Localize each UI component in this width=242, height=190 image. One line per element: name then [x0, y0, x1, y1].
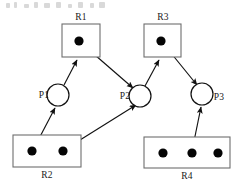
resource-label-r4: R4: [181, 171, 193, 181]
token-dot: [156, 36, 165, 45]
resource-label-r1: R1: [75, 12, 87, 22]
process-circle-p3: [191, 83, 213, 105]
token-dot: [27, 146, 36, 155]
resource-node-r1[interactable]: R1: [62, 12, 100, 57]
resource-box-r2: [13, 135, 81, 167]
edge-p2-to-r3: [145, 60, 159, 86]
process-circle-p1: [47, 84, 69, 106]
resource-node-r2[interactable]: R2: [13, 135, 81, 180]
token-dot: [187, 148, 196, 157]
resource-label-r3: R3: [157, 12, 169, 22]
process-node-p1[interactable]: P1: [39, 84, 69, 106]
edge-p1-to-r1: [64, 60, 77, 85]
token-dot: [158, 148, 167, 157]
token-dot: [213, 148, 222, 157]
process-label-p3: P3: [214, 92, 224, 102]
token-dot: [74, 36, 83, 45]
process-label-p1: P1: [39, 90, 49, 100]
resource-node-r3[interactable]: R3: [144, 12, 181, 57]
process-node-p2[interactable]: P2: [120, 85, 151, 107]
process-label-p2: P2: [120, 91, 130, 101]
resource-allocation-graph: R1 R3 R2 R4 P1: [0, 0, 242, 190]
process-circle-p2: [129, 85, 151, 107]
resource-node-r4[interactable]: R4: [144, 137, 230, 181]
process-node-p3[interactable]: P3: [191, 83, 224, 105]
resource-label-r2: R2: [41, 170, 53, 180]
token-dot: [58, 146, 67, 155]
diagram-canvas: R1 R3 R2 R4 P1: [0, 0, 242, 190]
